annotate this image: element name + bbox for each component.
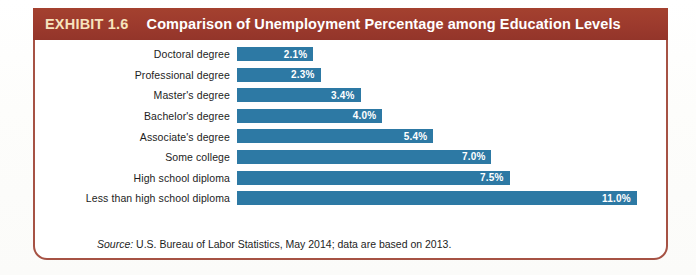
- bar-chart: Doctoral degree2.1%Professional degree2.…: [35, 44, 666, 226]
- bar-row: Master's degree3.4%: [35, 85, 666, 106]
- category-label: Professional degree: [35, 69, 237, 81]
- category-label: Master's degree: [35, 89, 237, 101]
- bar-row: Some college7.0%: [35, 147, 666, 168]
- bar-row: Less than high school diploma11.0%: [35, 188, 666, 209]
- bar-track: 5.4%: [237, 126, 666, 147]
- bar: 4.0%: [237, 109, 382, 123]
- bar: 7.5%: [237, 171, 510, 185]
- bar-value-label: 7.5%: [480, 172, 510, 183]
- exhibit-number-label: EXHIBIT 1.6: [45, 16, 129, 32]
- bar: 3.4%: [237, 88, 361, 102]
- category-label: High school diploma: [35, 172, 237, 184]
- bar-value-label: 5.4%: [404, 131, 434, 142]
- bar: 2.1%: [237, 47, 313, 61]
- bar-track: 2.1%: [237, 44, 666, 65]
- bar-value-label: 2.3%: [291, 69, 321, 80]
- bar: 5.4%: [237, 129, 433, 143]
- bar-track: 11.0%: [237, 188, 666, 209]
- category-label: Associate's degree: [35, 131, 237, 143]
- exhibit-title: Comparison of Unemployment Percentage am…: [147, 16, 621, 32]
- exhibit-frame: EXHIBIT 1.6 Comparison of Unemployment P…: [33, 8, 668, 260]
- bar-track: 3.4%: [237, 85, 666, 106]
- bar-track: 2.3%: [237, 65, 666, 86]
- source-text: U.S. Bureau of Labor Statistics, May 201…: [136, 238, 451, 250]
- bar-value-label: 3.4%: [331, 90, 361, 101]
- category-label: Doctoral degree: [35, 48, 237, 60]
- bar-track: 7.0%: [237, 147, 666, 168]
- bar-row: Doctoral degree2.1%: [35, 44, 666, 65]
- bar-track: 4.0%: [237, 106, 666, 127]
- bar-row: Professional degree2.3%: [35, 65, 666, 86]
- bar: 7.0%: [237, 150, 491, 164]
- bar-row: Bachelor's degree4.0%: [35, 106, 666, 127]
- category-label: Some college: [35, 151, 237, 163]
- bar-row: High school diploma7.5%: [35, 168, 666, 189]
- bar-value-label: 4.0%: [353, 110, 383, 121]
- exhibit-header: EXHIBIT 1.6 Comparison of Unemployment P…: [33, 8, 668, 40]
- source-note: Source: U.S. Bureau of Labor Statistics,…: [97, 238, 451, 250]
- bar: 11.0%: [237, 191, 637, 205]
- bar: 2.3%: [237, 68, 321, 82]
- bar-value-label: 7.0%: [462, 151, 492, 162]
- category-label: Bachelor's degree: [35, 110, 237, 122]
- bar-value-label: 11.0%: [602, 193, 637, 204]
- bar-value-label: 2.1%: [284, 49, 314, 60]
- bar-row: Associate's degree5.4%: [35, 126, 666, 147]
- category-label: Less than high school diploma: [35, 192, 237, 204]
- bar-track: 7.5%: [237, 168, 666, 189]
- source-label: Source:: [97, 238, 133, 250]
